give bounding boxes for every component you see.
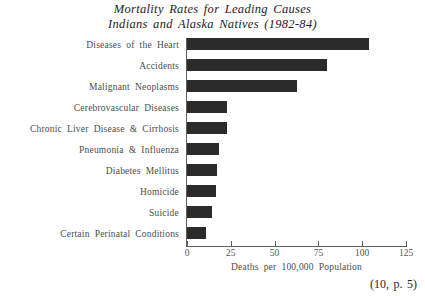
bar [187,227,206,239]
bar-row: Cerebrovascular Diseases [187,101,406,113]
source-citation: (10, p. 5) [370,277,417,292]
bar [187,80,297,92]
category-label: Pneumonia & Influenza [0,144,179,156]
category-label: Accidents [0,60,179,72]
chart-title-line-1: Mortality Rates for Leading Causes [0,2,425,17]
bar-row: Certain Perinatal Conditions [187,227,406,239]
chart-title-line-2: Indians and Alaska Natives (1982-84) [0,17,425,32]
bar-row: Chronic Liver Disease & Cirrhosis [187,122,406,134]
category-label: Suicide [0,207,179,219]
category-label: Homicide [0,186,179,198]
category-label: Chronic Liver Disease & Cirrhosis [0,123,179,135]
x-tick-125 [406,241,407,247]
bar [187,101,227,113]
category-label: Diseases of the Heart [0,39,179,51]
x-axis-line [186,246,407,247]
x-tick-label-100: 100 [355,248,369,258]
bar [187,122,227,134]
bar-row: Diabetes Mellitus [187,164,406,176]
mortality-bar-chart: Mortality Rates for Leading Causes India… [0,0,425,296]
x-tick-label-0: 0 [185,248,190,258]
x-tick-label-125: 125 [399,248,413,258]
category-label: Malignant Neoplasms [0,81,179,93]
x-tick-label-25: 25 [226,248,236,258]
x-tick-label-50: 50 [270,248,280,258]
bar [187,164,217,176]
bar-row: Homicide [187,185,406,197]
bar-row: Suicide [187,206,406,218]
bar [187,59,327,71]
bar-row: Pneumonia & Influenza [187,143,406,155]
bar [187,206,212,218]
category-label: Cerebrovascular Diseases [0,102,179,114]
bar-row: Diseases of the Heart [187,38,406,50]
bar [187,143,219,155]
bars-container: Diseases of the HeartAccidentsMalignant … [187,38,406,246]
chart-title: Mortality Rates for Leading Causes India… [0,2,425,32]
x-axis-label: Deaths per 100,000 Population [187,262,406,272]
category-label: Diabetes Mellitus [0,165,179,177]
bar-row: Malignant Neoplasms [187,80,406,92]
x-tick-label-75: 75 [314,248,324,258]
bar [187,38,369,50]
bar-row: Accidents [187,59,406,71]
bar [187,185,216,197]
category-label: Certain Perinatal Conditions [0,228,179,240]
